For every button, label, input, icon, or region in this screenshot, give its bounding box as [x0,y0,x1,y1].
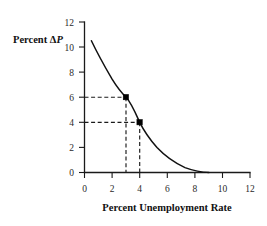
y-axis-title-word: Percent [13,34,48,45]
x-tick-label: 4 [137,184,142,194]
phillips-curve-plot: 0 2 4 6 8 10 12 0 2 4 6 8 10 12 [0,0,267,226]
phillips-curve-line [91,41,209,173]
y-tick-label: 8 [69,68,74,78]
chart-figure: 0 2 4 6 8 10 12 0 2 4 6 8 10 12 [0,0,267,226]
y-axis-title: Percent ΔP [13,34,63,45]
y-tick-label: 10 [65,43,75,53]
x-tick-label: 8 [193,184,198,194]
y-tick-label: 12 [65,18,75,28]
y-tick-label: 6 [69,93,74,103]
x-tick-label: 2 [110,184,115,194]
y-tick-label: 4 [69,118,74,128]
x-tick-label: 10 [218,184,228,194]
x-axis-ticks [85,173,251,179]
x-axis-title: Percent Unemployment Rate [102,202,232,213]
x-tick-label: 12 [245,184,255,194]
y-tick-label: 0 [69,168,74,178]
x-tick-label: 6 [165,184,170,194]
y-tick-labels: 0 2 4 6 8 10 12 [65,18,75,179]
x-tick-labels: 0 2 4 6 8 10 12 [82,184,255,194]
y-axis-ticks [79,22,85,173]
marker-point-a [123,94,128,99]
marker-point-b [137,120,142,125]
y-axis-title-symbol: P [56,34,63,45]
y-tick-label: 2 [69,143,74,153]
x-tick-label: 0 [82,184,87,194]
guide-lines [85,97,140,172]
